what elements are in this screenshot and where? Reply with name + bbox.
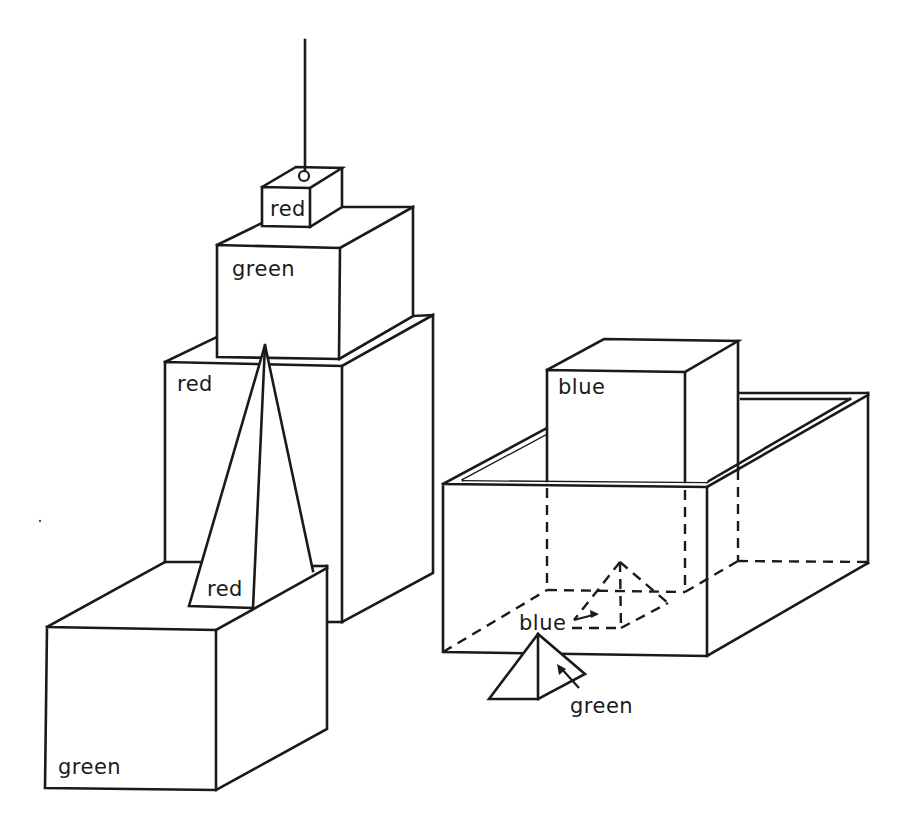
green-top-block-label: green [232,257,295,281]
front-green-block: green [45,562,327,790]
hidden-blue-pyramid: blue [519,562,668,635]
front-block-label: green [58,755,121,779]
hand [299,40,309,181]
pyramid-label: red [207,577,243,601]
blocks-world-diagram: red green red red [0,0,912,836]
small-block-label: red [270,197,306,221]
hidden-pyramid-label: blue [519,611,566,635]
green-top-block: green [217,207,413,359]
hand-grip-icon [299,171,309,181]
box-block-label: blue [558,375,605,399]
blue-block: blue [463,339,740,592]
floor-pyramid-label: green [570,694,633,718]
tall-block-label: red [177,372,213,396]
green-floor-pyramid: green [489,634,633,718]
